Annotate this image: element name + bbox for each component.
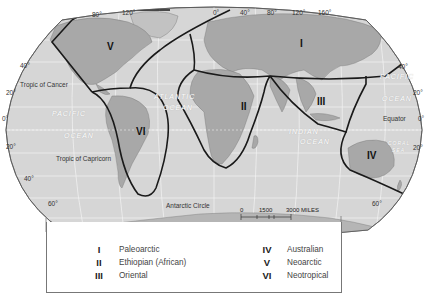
longitude-label: 120° bbox=[122, 9, 135, 16]
scale-miles-3000: 3000 MILES bbox=[286, 207, 319, 213]
latitude-label: 20° bbox=[413, 144, 423, 151]
pacific-ocean-label: PACIFIC bbox=[380, 73, 414, 80]
legend-numeral: I bbox=[89, 244, 109, 255]
latitude-label: 20° bbox=[6, 89, 16, 96]
longitude-label: 0° bbox=[213, 9, 219, 16]
legend-numeral: IV bbox=[257, 244, 277, 255]
legend-label: Oriental bbox=[119, 271, 148, 280]
longitude-label: 120° bbox=[292, 9, 305, 16]
latitude-label: 60° bbox=[48, 200, 58, 207]
pacific-ocean-label: PACIFIC bbox=[52, 110, 86, 117]
antarctic-circle-label: Antarctic Circle bbox=[166, 202, 210, 209]
latitude-label: 40° bbox=[398, 63, 408, 70]
latitude-label: 40° bbox=[24, 175, 34, 182]
scale-miles-0: 0 bbox=[240, 207, 243, 213]
atlantic-ocean-label: ATLANTIC bbox=[154, 93, 195, 100]
legend-label: Neoarctic bbox=[287, 258, 322, 267]
latitude-label: 60° bbox=[372, 200, 382, 207]
pacific-ocean-label: OCEAN bbox=[64, 132, 94, 139]
legend: I Paleoarctic II Ethiopian (African) III… bbox=[46, 222, 342, 293]
latitude-label: 40° bbox=[20, 62, 30, 69]
longitude-label: 80° bbox=[92, 11, 102, 18]
realm-marker-vi: VI bbox=[136, 126, 145, 137]
latitude-label: 0° bbox=[2, 115, 8, 122]
coral-sea-label: SEA bbox=[392, 147, 405, 153]
latitude-label: 0° bbox=[418, 115, 424, 122]
indian-ocean-label: OCEAN bbox=[300, 138, 330, 145]
legend-label: Paleoarctic bbox=[119, 245, 160, 254]
equator-label: Equator bbox=[383, 115, 406, 122]
tropic-of-capricorn-label: Tropic of Capricorn bbox=[56, 155, 111, 162]
legend-numeral: V bbox=[257, 257, 277, 268]
legend-numeral: VI bbox=[257, 270, 277, 281]
coral-sea-label: CORAL bbox=[388, 140, 410, 146]
pacific-ocean-label: OCEAN bbox=[382, 95, 412, 102]
longitude-label: 40° bbox=[240, 9, 250, 16]
realm-marker-ii: II bbox=[241, 101, 247, 112]
atlantic-ocean-label: OCEAN bbox=[163, 104, 193, 111]
longitude-label: 160° bbox=[318, 9, 331, 16]
legend-label: Ethiopian (African) bbox=[119, 258, 186, 267]
realm-marker-iv: IV bbox=[367, 150, 376, 161]
realm-marker-v: V bbox=[107, 41, 114, 52]
scale-miles-1500: 1500 bbox=[259, 207, 272, 213]
latitude-label: 20° bbox=[6, 143, 16, 150]
latitude-label: 20° bbox=[413, 89, 423, 96]
legend-numeral: II bbox=[89, 257, 109, 268]
realm-marker-iii: III bbox=[317, 96, 325, 107]
realm-marker-i: I bbox=[300, 38, 303, 49]
indian-ocean-label: INDIAN bbox=[289, 128, 319, 135]
tropic-of-cancer-label: Tropic of Cancer bbox=[20, 81, 68, 88]
legend-numeral: III bbox=[89, 270, 109, 281]
legend-label: Australian bbox=[287, 245, 323, 254]
longitude-label: 80° bbox=[267, 9, 277, 16]
legend-label: Neotropical bbox=[287, 271, 328, 280]
